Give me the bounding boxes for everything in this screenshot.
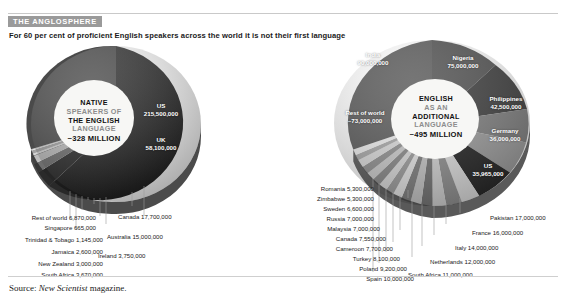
- left-center-line4: LANGUAGE: [54, 125, 134, 134]
- slice-label-nigeria-name: Nigeria: [426, 54, 500, 62]
- leader-label-malaysia: Malaysia 7,000,000: [278, 226, 380, 233]
- leader-label-canada-additional: Canada 7,550,000: [278, 236, 386, 243]
- right-center-line4: LANGUAGE: [394, 121, 478, 130]
- slice-label-rest-value: ~73,000,000: [328, 117, 402, 125]
- leader-label-cameroon: Cameroon 7,700,000: [278, 246, 393, 253]
- source-suffix: magazine.: [88, 283, 127, 293]
- leader-label-singapore: Singapore 665,000: [0, 225, 96, 232]
- leader-label-italy: Italy 14,000,000: [455, 245, 498, 252]
- slice-label-us-additional-name: US: [451, 162, 525, 170]
- leader-label-turkey: Turkey 8,100,000: [278, 256, 400, 263]
- slice-label-us-name: US: [128, 102, 194, 110]
- slice-label-uk: UK 58,100,000: [128, 136, 194, 152]
- leader-label-sweden: Sweden 6,600,000: [278, 206, 374, 213]
- leader-label-netherlands: Netherlands 12,000,000: [430, 259, 495, 266]
- source-credit: Source: New Scientist magazine.: [9, 283, 126, 293]
- slice-label-uk-value: 58,100,000: [128, 144, 194, 152]
- bottom-divider: [8, 276, 558, 277]
- left-center-total: ~328 MILLION: [54, 134, 134, 143]
- slice-label-us: US 215,500,000: [128, 102, 194, 118]
- leader-label-romania: Romania 5,300,000: [278, 186, 374, 193]
- right-center-label: ENGLISH AS AN ADDITIONAL LANGUAGE ~495 M…: [394, 95, 478, 139]
- slice-label-india: India 90,000,000: [336, 51, 410, 67]
- standfirst-text: For 60 per cent of proficient English sp…: [9, 31, 345, 40]
- leader-label-zimbabwe: Zimbabwe 5,300,000: [278, 196, 374, 203]
- source-publication: New Scientist: [39, 283, 88, 293]
- slice-label-india-name: India: [336, 51, 410, 59]
- leader-label-poland: Poland 9,200,000: [278, 266, 407, 273]
- slice-label-philippines: Philippines 42,500,000: [469, 95, 543, 111]
- slice-label-rest-name: Rest of world: [328, 109, 402, 117]
- leader-label-trinidad-tobago: Trinidad & Tobago 1,145,000: [0, 237, 103, 244]
- slice-label-germany: Germany 36,000,000: [468, 127, 542, 143]
- slice-label-germany-name: Germany: [468, 127, 542, 135]
- leader-label-australia: Australia 15,000,000: [107, 234, 163, 241]
- left-center-label: NATIVE SPEAKERS OF THE ENGLISH LANGUAGE …: [54, 99, 134, 143]
- section-kicker: THE ANGLOSPHERE: [8, 16, 102, 27]
- slice-label-nigeria: Nigeria 75,000,000: [426, 54, 500, 70]
- top-divider: [8, 13, 558, 14]
- slice-label-us-value: 215,500,000: [128, 110, 194, 118]
- leader-label-new-zealand: New Zealand 3,000,000: [0, 261, 103, 268]
- right-center-total: ~495 MILLION: [394, 130, 478, 139]
- source-prefix: Source:: [9, 283, 39, 293]
- leader-label-pakistan: Pakistan 17,000,000: [490, 215, 546, 222]
- leader-label-spain: Spain 10,000,000: [278, 276, 414, 283]
- leader-label-rest-of-world-native: Rest of world 6,870,000: [0, 215, 96, 222]
- slice-label-germany-value: 36,000,000: [468, 135, 542, 143]
- infographic-page: THE ANGLOSPHERE For 60 per cent of profi…: [0, 0, 566, 303]
- chart-native-speakers: NATIVE SPEAKERS OF THE ENGLISH LANGUAGE …: [10, 44, 230, 219]
- slice-label-us-additional: US 35,965,000: [451, 162, 525, 178]
- leader-label-russia: Russia 7,000,000: [278, 216, 374, 223]
- slice-label-india-value: 90,000,000: [336, 59, 410, 67]
- leader-label-canada-native: Canada 17,700,000: [118, 214, 172, 221]
- slice-label-us-additional-value: 35,965,000: [451, 170, 525, 178]
- slice-label-philippines-value: 42,500,000: [469, 103, 543, 111]
- slice-label-uk-name: UK: [128, 136, 194, 144]
- slice-label-rest-of-world-additional: Rest of world ~73,000,000: [328, 109, 402, 125]
- leader-label-ireland: Ireland 3,750,000: [98, 253, 145, 260]
- slice-label-philippines-name: Philippines: [469, 95, 543, 103]
- leader-label-france: France 16,000,000: [472, 230, 523, 237]
- slice-label-nigeria-value: 75,000,000: [426, 62, 500, 70]
- leader-label-jamaica: Jamaica 2,600,000: [0, 249, 103, 256]
